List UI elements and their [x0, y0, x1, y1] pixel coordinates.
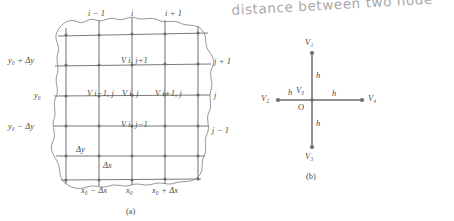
node-label-v-i-j-minus-1: V i, j−1: [121, 120, 148, 129]
stencil-label-v0: V₀: [296, 86, 304, 95]
node-dot-v3: [310, 145, 314, 149]
grid-right-label-j: j: [214, 91, 216, 100]
stencil-spacing-label-h-left: h: [288, 88, 292, 97]
figure-a-caption: (a): [126, 206, 135, 216]
stencil-spacing-label-h-down: h: [316, 119, 320, 128]
node-label-v-i-plus-1-j: V i+1, j: [155, 89, 182, 98]
figure-graphics: [0, 0, 454, 221]
node-label-v-i-minus-1-j: V i−1, j: [87, 89, 114, 98]
grid-bottom-label-x0-minus-dx: x₀ − Δx: [81, 186, 107, 195]
stencil-label-v4: V₄: [368, 94, 376, 103]
node-dot-v1: [310, 51, 314, 55]
stencil-spacing-label-h-up: h: [316, 71, 320, 80]
figure-container: distance between two node i − 1 i i + 1 …: [0, 0, 454, 221]
node-label-v-i-j: V i, j: [122, 89, 139, 98]
figure-b-caption: (b): [306, 171, 316, 181]
spacing-label-delta-x: Δx: [103, 161, 112, 170]
grid-bottom-label-x0: x₀: [126, 186, 133, 195]
node-dot-v4: [360, 98, 364, 102]
stencil-label-v1: V₁: [305, 38, 313, 47]
grid-top-label-i-plus-1: i + 1: [165, 9, 182, 18]
grid-right-label-j-plus-1: j + 1: [214, 57, 231, 66]
node-dot-v0: [310, 98, 314, 102]
stencil-spacing-label-h-right: h: [332, 89, 336, 98]
grid-top-label-i-minus-1: i − 1: [88, 9, 105, 18]
stencil-arms: [278, 53, 362, 147]
grid-top-label-i: i: [131, 9, 133, 18]
grid-bottom-label-x0-plus-dx: x₀ + Δx: [152, 186, 178, 195]
stencil-label-v2: V₂: [261, 94, 269, 103]
grid-left-label-y0-minus-dy: y₀ − Δy: [8, 122, 34, 131]
node-dot-v2: [276, 98, 280, 102]
stencil-label-origin: O: [298, 103, 304, 112]
grid-vertical-lines: [66, 18, 198, 186]
grid-left-label-y0: y₀: [34, 91, 41, 100]
grid-right-label-j-minus-1: j − 1: [212, 126, 229, 135]
grid-left-label-y0-plus-dy: y₀ + Δy: [8, 56, 34, 65]
spacing-label-delta-y: Δy: [76, 145, 85, 154]
node-label-v-i-j-plus-1: V i, j+1: [121, 56, 148, 65]
stencil-label-v3: V₃: [305, 152, 313, 161]
